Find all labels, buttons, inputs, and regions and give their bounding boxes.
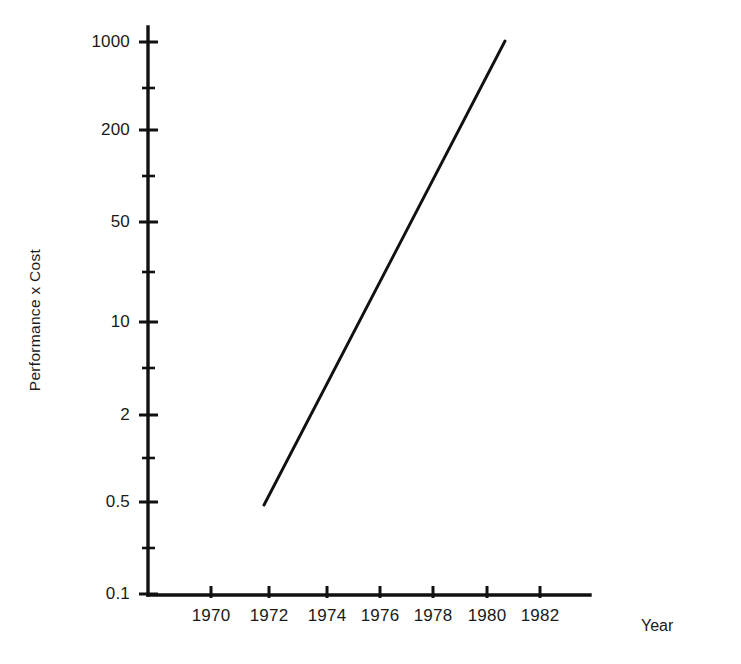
y-tick-label-0.1: 0.1: [72, 584, 130, 604]
chart-figure: Performance x Cost 1000 200 50 10 2 0.5 …: [0, 0, 741, 664]
y-axis-title: Performance x Cost: [26, 248, 43, 391]
plot-area: Performance x Cost: [0, 0, 741, 664]
y-tick-label-50: 50: [72, 212, 130, 232]
y-tick-label-200: 200: [72, 120, 130, 140]
y-tick-label-1000: 1000: [72, 32, 130, 52]
data-series-line: [264, 41, 505, 505]
y-tick-label-0.5: 0.5: [72, 492, 130, 512]
x-tick-label-1982: 1982: [506, 606, 574, 626]
x-axis-title: Year: [641, 617, 673, 635]
y-tick-label-10: 10: [72, 312, 130, 332]
y-tick-label-2: 2: [72, 405, 130, 425]
